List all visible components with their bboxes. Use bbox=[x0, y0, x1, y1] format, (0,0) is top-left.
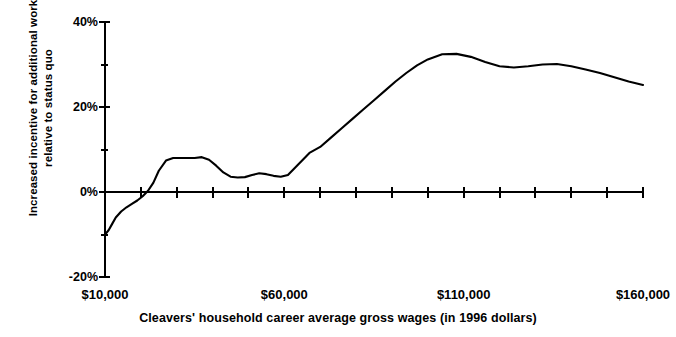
data-series-line bbox=[105, 54, 643, 235]
chart-figure: Increased incentive for additional work … bbox=[0, 0, 676, 337]
chart-plot-area bbox=[0, 0, 676, 337]
x-axis-title: Cleavers' household career average gross… bbox=[0, 311, 676, 325]
